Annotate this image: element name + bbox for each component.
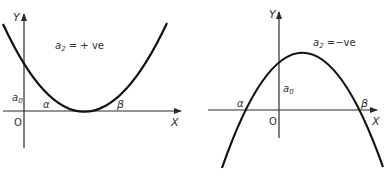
root-alpha-label: α — [43, 99, 50, 110]
diagram-right: Y X O a0 α β a2 =−ve — [208, 8, 383, 168]
origin-label: O — [14, 117, 22, 128]
origin-label: O — [269, 116, 277, 127]
parabola-curve — [3, 23, 167, 112]
x-axis-label: X — [170, 116, 179, 129]
coefficient-condition: a2 =−ve — [313, 37, 356, 50]
diagram-left: Y X O a0 α β a2 = + ve — [3, 11, 181, 148]
y-axis-label: Y — [13, 11, 21, 24]
root-beta-label: β — [360, 97, 368, 110]
intercept-label: a0 — [12, 92, 23, 105]
intercept-label: a0 — [283, 83, 294, 96]
root-alpha-label: α — [237, 98, 244, 109]
x-axis-label: X — [371, 115, 380, 128]
y-axis-label: Y — [269, 8, 277, 21]
root-beta-label: β — [116, 98, 124, 111]
coefficient-condition: a2 = + ve — [55, 40, 104, 53]
quadratic-graphs: Y X O a0 α β a2 = + ve Y X O a0 α β a2 =… — [0, 0, 386, 181]
